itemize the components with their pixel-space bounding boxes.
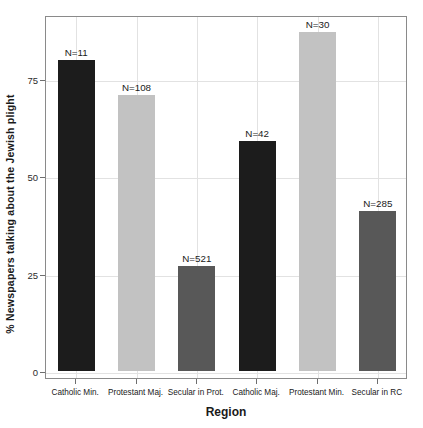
bar-chart-figure: % Newspapers talking about the Jewish pl… [0, 0, 423, 428]
y-axis-title: % Newspapers talking about the Jewish pl… [0, 0, 20, 428]
x-axis-tick [317, 379, 318, 384]
y-tick-label: 25 [0, 269, 38, 280]
bar-value-label: N=108 [122, 82, 151, 93]
x-tick-label: Secular in RC [352, 388, 403, 397]
bar-value-label: N=42 [245, 128, 269, 139]
x-axis-tick [377, 379, 378, 384]
x-tick-label: Catholic Min. [51, 388, 98, 397]
bar[interactable] [359, 211, 396, 371]
gridline-horizontal [46, 373, 406, 374]
bar-value-label: N=285 [363, 198, 392, 209]
x-axis-tick [75, 379, 76, 384]
bar[interactable] [58, 60, 95, 371]
bar-value-label: N=30 [306, 19, 330, 30]
bar-value-label: N=11 [65, 47, 88, 58]
x-axis-title: Region [45, 405, 407, 419]
bar[interactable] [178, 266, 215, 371]
bar-value-label: N=521 [182, 253, 211, 264]
y-tick-label: 75 [0, 75, 38, 86]
gridline-horizontal [46, 81, 406, 82]
plot-area: N=11N=108N=521N=42N=30N=285 [45, 16, 407, 379]
bar[interactable] [299, 32, 336, 371]
x-axis-tick [256, 379, 257, 384]
x-axis-tick [196, 379, 197, 384]
x-tick-label: Secular in Prot. [168, 388, 224, 397]
y-tick-label: 50 [0, 172, 38, 183]
y-tick-label: 0 [0, 367, 38, 378]
gridline-horizontal [46, 276, 406, 277]
x-tick-label: Protestant Maj. [108, 388, 163, 397]
x-axis-tick [136, 379, 137, 384]
bar[interactable] [118, 95, 155, 371]
bar[interactable] [239, 141, 276, 371]
x-tick-label: Catholic Maj. [232, 388, 279, 397]
x-tick-label: Protestant Min. [289, 388, 344, 397]
gridline-horizontal [46, 178, 406, 179]
